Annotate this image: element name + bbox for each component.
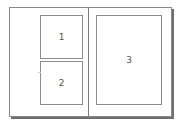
panel-label: 3 <box>126 55 132 65</box>
panel-3: 3 <box>96 15 162 105</box>
page-spread: 1 2 3 <box>9 7 172 117</box>
panel-1: 1 <box>40 15 83 59</box>
faint-mark <box>38 72 41 73</box>
panel-2: 2 <box>40 61 83 105</box>
panel-label: 2 <box>59 78 65 88</box>
spine-divider <box>88 8 89 116</box>
panel-label: 1 <box>59 32 65 42</box>
